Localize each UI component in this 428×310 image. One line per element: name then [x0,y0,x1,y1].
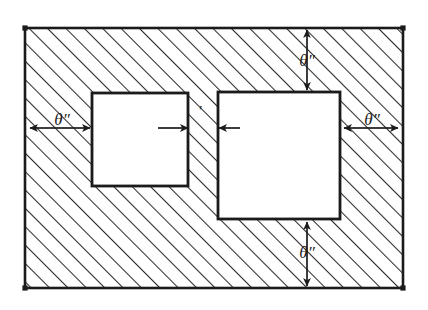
right-gap-label: θ″ [364,110,380,129]
corner-marker [22,285,27,290]
left-gap-label: θ″ [54,110,70,129]
corner-marker [22,25,27,30]
corner-marker [400,285,405,290]
hatched-solid-region [0,0,428,310]
top-gap-label: θ″ [299,51,315,70]
hatch-fill [0,0,428,310]
corner-marker [400,25,405,30]
left-square-cavity [92,93,188,186]
figure-canvas: θ″ θ″ ′ θ″ θ″ [0,0,428,310]
right-square-cavity [218,92,340,219]
bottom-gap-label: θ″ [299,243,315,262]
technical-drawing: θ″ θ″ ′ θ″ θ″ [0,0,428,310]
